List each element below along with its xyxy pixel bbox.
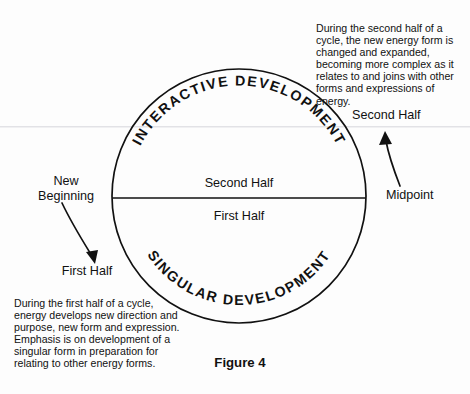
annotation-first-half-description: During the first half of a cycle, energy… [14,297,184,370]
label-midpoint: Midpoint [386,188,466,203]
label-new-beginning: New Beginning [26,174,106,203]
label-second-half-right: Second Half [352,108,456,123]
annotation-second-half-description: During the second half of a cycle, the n… [316,22,468,107]
lower-half-label: First Half [178,209,300,224]
cycle-circle-outline [112,69,366,323]
label-first-half-left: First Half [44,264,130,279]
figure-caption: Figure 4 [185,355,295,370]
figure-page: INTERACTIVE DEVELOPMENT SINGULAR DEVELOP… [0,0,470,394]
upper-half-label: Second Half [178,176,300,191]
arrow-midpoint-to-second-half [379,131,400,186]
arrow-new-beginning-to-first-half [62,203,98,264]
arrow-head-up [379,131,392,145]
arrow-head-down [86,250,98,264]
